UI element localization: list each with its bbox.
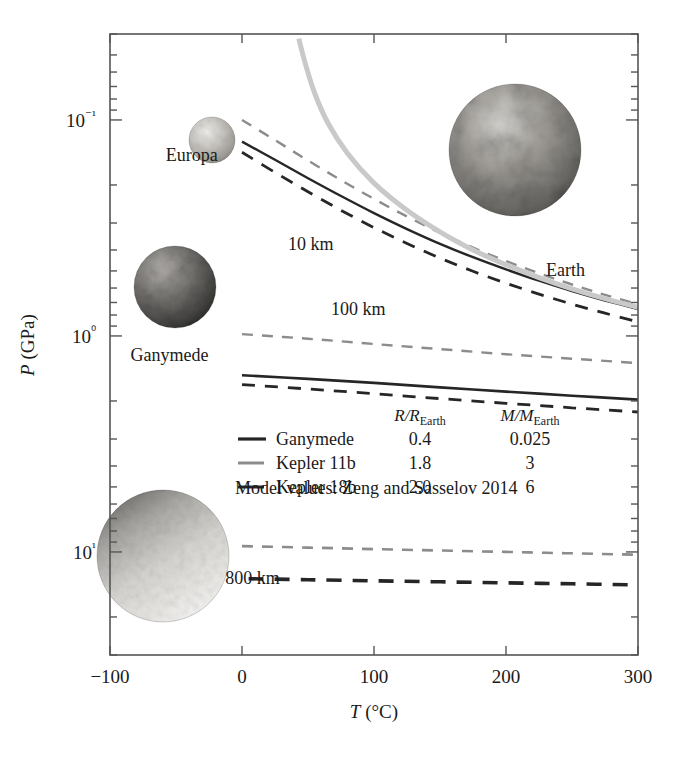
x-tick-label: 0: [237, 666, 247, 687]
x-axis-tick-labels: −1000100200300: [90, 666, 652, 687]
legend-label: Kepler 11b: [276, 453, 356, 473]
legend: R/REarth M/MEarth Ganymede0.40.025Kepler…: [235, 406, 560, 498]
x-tick-label: −100: [90, 666, 129, 687]
figure-panel: −1000100200300 10⁻¹10⁰10¹ T (°C) P (GPa)…: [0, 0, 678, 758]
annotation-100-km: 100 km: [331, 299, 386, 319]
curve-ganymede-100-km: [242, 375, 638, 399]
legend-mass-value: 6: [526, 477, 535, 497]
y-tick-label: 10⁰: [72, 323, 96, 347]
y-axis-tick-labels: 10⁻¹10⁰10¹: [66, 107, 96, 563]
data-curves-layer: [242, 39, 638, 585]
legend-radius-value: 0.4: [409, 429, 432, 449]
annotation-earth: Earth: [546, 260, 585, 280]
y-tick-label: 10¹: [73, 539, 96, 563]
y-tick-label: 10⁻¹: [66, 107, 96, 131]
y-axis-title: P (GPa): [17, 314, 39, 377]
curve-kepler-11b-100-km: [242, 334, 638, 363]
legend-header-mass: M/MEarth: [499, 406, 559, 428]
curve-kepler-11b-800-km: [242, 546, 638, 555]
curve-kepler-18b-800-km: [249, 579, 638, 585]
body-earth: [449, 84, 581, 216]
legend-label: Ganymede: [276, 429, 354, 449]
annotation-800-km: 800 km: [225, 568, 280, 588]
curve-kepler-18b-100-km: [242, 385, 638, 412]
annotation-10-km: 10 km: [288, 234, 334, 254]
legend-footnote: Model values: Zeng and Sasselov 2014: [235, 478, 517, 498]
x-axis-title: T (°C): [350, 701, 398, 723]
annotation-ganymede: Ganymede: [130, 345, 208, 365]
legend-radius-value: 1.8: [409, 453, 432, 473]
legend-mass-value: 0.025: [510, 429, 551, 449]
body-ganymede: [134, 246, 216, 328]
x-tick-label: 100: [360, 666, 389, 687]
x-tick-label: 200: [492, 666, 521, 687]
legend-mass-value: 3: [526, 453, 535, 473]
annotation-europa: Europa: [166, 145, 218, 165]
legend-header-radius: R/REarth: [393, 406, 446, 428]
x-tick-label: 300: [624, 666, 653, 687]
pt-phase-diagram: −1000100200300 10⁻¹10⁰10¹ T (°C) P (GPa)…: [0, 0, 678, 758]
body-waterworld: [97, 490, 229, 622]
